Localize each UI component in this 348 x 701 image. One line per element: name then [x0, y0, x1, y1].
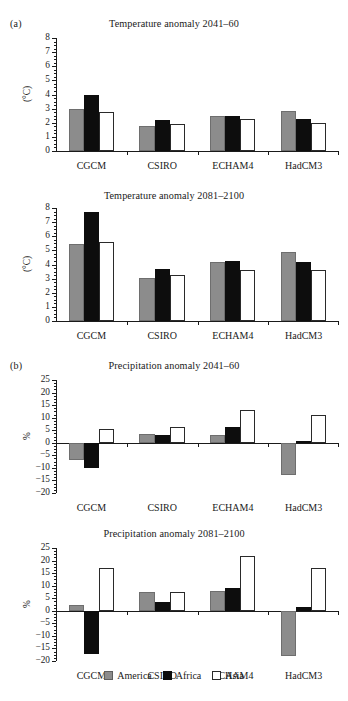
y-major-tick — [52, 95, 56, 96]
x-axis-end-cap — [338, 151, 339, 155]
y-minor-tick — [54, 589, 57, 590]
y-minor-tick — [54, 116, 57, 117]
bar-africa-cgcm — [84, 95, 99, 152]
x-group-separator-tick — [198, 443, 199, 447]
y-minor-tick — [54, 389, 57, 390]
bar-africa-hadcm3 — [296, 607, 311, 611]
y-minor-tick — [54, 130, 57, 131]
y-tick-label: 4 — [45, 260, 50, 269]
y-minor-tick — [54, 645, 57, 646]
y-minor-tick — [54, 446, 57, 447]
legend-swatch-africa-icon — [163, 671, 172, 680]
y-tick-label: 5 — [45, 246, 50, 255]
y-minor-tick — [54, 437, 57, 438]
y-minor-tick — [54, 212, 57, 213]
y-minor-tick — [54, 317, 57, 318]
bar-africa-cgcm — [84, 212, 99, 321]
bar-america-cgcm — [69, 605, 84, 611]
y-minor-tick — [54, 112, 57, 113]
bar-america-csiro — [139, 434, 154, 443]
bar-america-echam4 — [210, 435, 225, 443]
y-minor-tick — [54, 474, 57, 475]
y-minor-tick — [54, 490, 57, 491]
legend-item-america[interactable]: America — [104, 670, 151, 681]
bar-america-csiro — [139, 278, 154, 321]
bar-america-hadcm3 — [281, 611, 296, 657]
y-minor-tick — [54, 652, 57, 653]
bar-africa-csiro — [155, 602, 170, 611]
y-minor-tick — [54, 226, 57, 227]
y-major-tick — [52, 480, 56, 481]
y-minor-tick — [54, 300, 57, 301]
y-minor-tick — [54, 408, 57, 409]
bar-asia-csiro — [170, 124, 185, 151]
y-minor-tick — [54, 98, 57, 99]
y-major-tick — [52, 250, 56, 251]
y-minor-tick — [54, 247, 57, 248]
y-major-tick — [52, 236, 56, 237]
y-major-tick — [52, 151, 56, 152]
bar-america-cgcm — [69, 244, 84, 321]
y-tick-label: 15 — [41, 400, 50, 409]
y-major-tick — [52, 623, 56, 624]
y-tick-label: 5 — [45, 426, 50, 435]
bar-america-cgcm — [69, 443, 84, 460]
x-category-label: ECHAM4 — [212, 160, 253, 171]
bar-africa-csiro — [155, 269, 170, 321]
bar-africa-hadcm3 — [296, 119, 311, 151]
y-minor-tick — [54, 396, 57, 397]
y-minor-tick — [54, 567, 57, 568]
y-minor-tick — [54, 59, 57, 60]
y-minor-tick — [54, 608, 57, 609]
y-major-tick — [52, 468, 56, 469]
y-minor-tick — [54, 471, 57, 472]
chart-title: Precipitation anomaly 2041–60 — [0, 360, 348, 371]
legend-item-africa[interactable]: Africa — [163, 670, 202, 681]
y-minor-tick — [54, 229, 57, 230]
x-axis-end-cap — [338, 611, 339, 615]
x-category-label: CSIRO — [147, 330, 176, 341]
y-tick-label: 25 — [41, 375, 50, 384]
y-minor-tick — [54, 399, 57, 400]
x-axis-end-cap — [338, 321, 339, 325]
y-tick-label: 10 — [41, 581, 50, 590]
y-major-tick — [52, 393, 56, 394]
y-axis-line — [56, 380, 57, 493]
y-axis-label: % — [22, 587, 32, 621]
bar-asia-csiro — [170, 592, 185, 611]
y-major-tick — [52, 66, 56, 67]
y-major-tick — [52, 430, 56, 431]
y-minor-tick — [54, 583, 57, 584]
bar-africa-echam4 — [225, 261, 240, 321]
bar-asia-hadcm3 — [311, 123, 326, 151]
y-minor-tick — [54, 620, 57, 621]
y-minor-tick — [54, 601, 57, 602]
x-category-label: HadCM3 — [285, 160, 322, 171]
y-minor-tick — [54, 73, 57, 74]
y-minor-tick — [54, 119, 57, 120]
y-minor-tick — [54, 440, 57, 441]
legend-item-asia[interactable]: Asia — [212, 670, 243, 681]
y-tick-label: 20 — [41, 388, 50, 397]
y-tick-label: 3 — [45, 274, 50, 283]
x-group-separator-tick — [198, 321, 199, 325]
chart-title: Temperature anomaly 2081–2100 — [0, 190, 348, 201]
bar-asia-hadcm3 — [311, 568, 326, 611]
y-minor-tick — [54, 592, 57, 593]
y-minor-tick — [54, 289, 57, 290]
x-axis-end-cap — [338, 443, 339, 447]
y-minor-tick — [54, 614, 57, 615]
legend-swatch-asia-icon — [212, 671, 221, 680]
y-minor-tick — [54, 415, 57, 416]
plot-area-temp-2081-2100: 012345678(°C)CGCMCSIROECHAM4HadCM3 — [56, 208, 339, 321]
y-tick-label: 25 — [41, 543, 50, 552]
y-major-tick — [52, 573, 56, 574]
x-group-separator-tick — [127, 151, 128, 155]
chart-title: Temperature anomaly 2041–60 — [0, 18, 348, 29]
y-minor-tick — [54, 303, 57, 304]
y-minor-tick — [54, 564, 57, 565]
y-major-tick — [52, 123, 56, 124]
bar-asia-cgcm — [99, 568, 114, 611]
y-minor-tick — [54, 140, 57, 141]
y-tick-label: 4 — [45, 90, 50, 99]
